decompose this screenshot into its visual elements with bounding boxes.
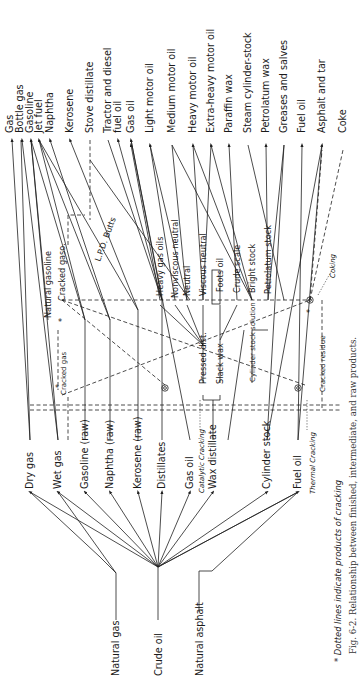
label-crude-scale: Crude scale — [232, 245, 242, 293]
label-petrolatum-wax: Petrolatum wax — [260, 58, 271, 133]
label-heavy-motor-oil: Heavy motor oil — [187, 57, 198, 133]
label-fuel-oil-2: fuel oil — [112, 101, 123, 133]
asterisk-marker-2: * — [55, 383, 59, 393]
label-coke: Coke — [337, 109, 348, 133]
label-slack-wax: Slack wax — [215, 343, 225, 384]
label-kerosene: Kerosene — [64, 89, 75, 133]
intermediate-products: Natural gasoline Cracked gaso. L.P.D. Bu… — [43, 216, 327, 395]
label-coking: Coking — [329, 253, 337, 278]
label-natural-asphalt: Natural asphalt — [194, 602, 205, 676]
label-pressed-dist: Pressed dist. — [198, 332, 208, 384]
label-steam-cylinder-stock: Steam cylinder-stock — [242, 32, 253, 133]
dotted-lines-note: * Dotted lines indicate products of crac… — [333, 480, 343, 662]
label-natural-gasoline: Natural gasoline — [43, 251, 53, 318]
label-medium-motor-oil: Medium motor oil — [166, 49, 177, 133]
raw-fractions: Dry gas Wet gas Gasoline (raw) Naphtha (… — [24, 417, 303, 489]
label-bright-stock: Bright stock — [247, 244, 257, 293]
label-greases-salves: Greases and salves — [278, 40, 289, 133]
finished-products: Gas Bottle gas Gasoline Jet fuel Naphtha… — [4, 29, 348, 134]
asterisk-marker-3: * — [306, 308, 310, 318]
label-crude-oil: Crude oil — [153, 633, 164, 676]
label-heavy-gas-oils: Heavy gas oils — [155, 237, 165, 296]
label-naphtha: Naphtha — [44, 92, 55, 133]
label-cracked-gas: Cracked gas — [60, 352, 68, 395]
label-kerosene-raw: Kerosene (raw) — [132, 417, 143, 489]
label-catalytic-cracking: Catalytic Cracking — [198, 429, 206, 493]
label-neutral: Neutral — [182, 266, 192, 296]
label-fuel-oil-finished: Fuel oil — [296, 99, 307, 133]
label-asphalt-tar: Asphalt and tar — [316, 59, 327, 133]
label-viscous-neutral: Viscous neutral — [198, 233, 208, 296]
label-cylinder-stock: Cylinder stock — [261, 420, 272, 489]
label-dry-gas: Dry gas — [24, 452, 35, 489]
label-distillates: Distillates — [156, 442, 167, 489]
label-paraffin-wax: Paraffin wax — [223, 74, 234, 133]
label-foots-oil: Foots oil — [215, 258, 225, 292]
label-nonviscous-neutral: Nonviscous neutral — [170, 219, 180, 298]
label-fuel-oil-raw: Fuel oil — [292, 455, 303, 489]
label-stove-distillate: Stove distillate — [84, 61, 95, 133]
label-cylinder-stock-solution: Cylinder stock solution — [249, 302, 257, 382]
label-natural-gas: Natural gas — [110, 621, 121, 676]
label-wax-distillate: Wax distillate — [207, 424, 218, 489]
label-jet-fuel: Jet fuel — [33, 99, 44, 134]
figure-caption: Fig. 6-2. Relationship between finished,… — [348, 337, 358, 654]
label-cracked-residue: Cracked residue — [319, 336, 327, 393]
label-gasoline-raw: Gasoline (raw) — [79, 419, 90, 489]
label-gas-oil-finished: Gas oil — [125, 100, 136, 133]
label-extra-heavy-motor-oil: Extra-heavy motor oil — [205, 29, 216, 133]
raw-materials: Natural gas Crude oil Natural asphalt — [110, 602, 205, 676]
refinery-products-diagram: Gas Bottle gas Gasoline Jet fuel Naphtha… — [0, 0, 362, 691]
label-lpd-butts: L.P.D. Butts — [92, 216, 117, 263]
label-cracked-gaso: Cracked gaso. — [57, 243, 67, 301]
label-light-motor-oil: Light motor oil — [144, 63, 155, 133]
label-petrolatum-stock: Petrolatum stock — [263, 225, 273, 294]
label-gas-oil-raw: Gas oil — [184, 456, 195, 489]
asterisk-marker: * — [58, 317, 62, 327]
label-wet-gas: Wet gas — [52, 450, 63, 489]
label-naphtha-raw: Naphtha (raw) — [104, 420, 115, 489]
label-thermal-cracking: Thermal Cracking — [309, 431, 317, 494]
